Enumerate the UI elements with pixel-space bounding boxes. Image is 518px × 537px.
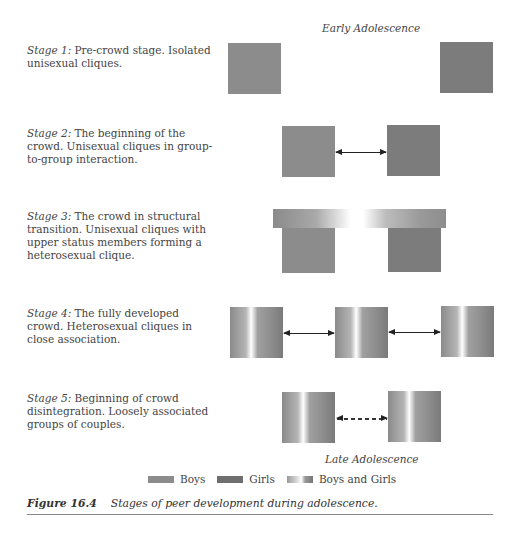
stage-1-description: Stage 1: Pre-crowd stage. Isolated unise… xyxy=(27,44,217,70)
loose-association-arrow xyxy=(337,418,387,420)
figure-label: Figure 16.4 xyxy=(27,497,97,510)
legend-label: Boys and Girls xyxy=(319,473,396,485)
legend-label: Boys xyxy=(180,473,205,485)
boys-clique xyxy=(282,228,335,273)
legend-item-boys: Boys xyxy=(148,473,205,485)
caption-rule xyxy=(27,514,493,515)
heterosexual-clique-bar xyxy=(273,209,446,228)
association-arrow xyxy=(389,332,440,333)
mixed-swatch xyxy=(287,476,313,483)
figure-caption-text: Stages of peer development during adoles… xyxy=(111,497,378,510)
stage-5-title: Stage 5: xyxy=(27,392,71,404)
interaction-arrow xyxy=(336,152,386,153)
boys-clique xyxy=(282,126,335,177)
boys-swatch xyxy=(148,476,174,483)
stage-2-description: Stage 2: The beginning of the crowd. Uni… xyxy=(27,127,217,166)
girls-clique xyxy=(388,228,441,272)
figure-caption: Figure 16.4Stages of peer development du… xyxy=(27,497,378,510)
association-arrow xyxy=(284,333,334,334)
girls-swatch xyxy=(217,476,243,483)
legend: Boys Girls Boys and Girls xyxy=(148,473,408,485)
girls-clique xyxy=(387,125,440,176)
mixed-clique xyxy=(230,307,283,358)
legend-item-mixed: Boys and Girls xyxy=(287,473,396,485)
early-adolescence-label: Early Adolescence xyxy=(322,22,420,34)
legend-label: Girls xyxy=(249,473,275,485)
stage-4-title: Stage 4: xyxy=(27,307,71,319)
stage-3-title: Stage 3: xyxy=(27,210,71,222)
late-adolescence-label: Late Adolescence xyxy=(325,453,419,465)
girls-clique xyxy=(440,42,493,93)
mixed-clique xyxy=(335,307,388,358)
boys-clique xyxy=(228,43,281,94)
stage-4-description: Stage 4: The fully developed crowd. Hete… xyxy=(27,307,217,346)
stage-2-title: Stage 2: xyxy=(27,127,71,139)
mixed-clique xyxy=(441,306,494,357)
couple-group xyxy=(282,392,335,443)
legend-item-girls: Girls xyxy=(217,473,275,485)
stage-5-description: Stage 5: Beginning of crowd disintegrati… xyxy=(27,392,217,431)
couple-group xyxy=(388,391,441,442)
stage-1-title: Stage 1: xyxy=(27,44,71,56)
stage-3-description: Stage 3: The crowd in structural transit… xyxy=(27,210,217,262)
